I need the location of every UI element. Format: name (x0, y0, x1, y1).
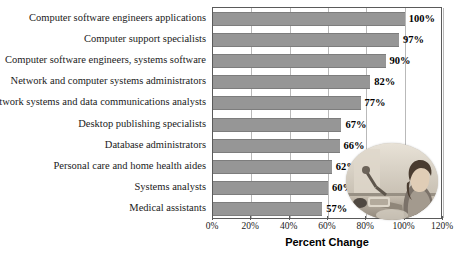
inset-photo (346, 143, 438, 220)
x-tick-label: 40% (280, 220, 297, 233)
x-tick-mark (442, 216, 443, 220)
x-tick-label: 0% (206, 220, 219, 233)
inset-photo-image (346, 143, 438, 220)
bar (213, 139, 340, 153)
x-tick-mark (327, 216, 328, 220)
bar-value-label: 77% (365, 96, 386, 110)
category-label: Computer software engineers, systems sof… (5, 53, 206, 67)
x-tick-mark (212, 216, 213, 220)
percent-change-bar-chart: Computer software engineers applications… (0, 0, 456, 254)
bar (213, 96, 361, 110)
x-tick-mark (289, 216, 290, 220)
category-label: Computer software engineers applications (29, 11, 206, 25)
bar-value-label: 67% (345, 118, 366, 132)
x-tick-label: 20% (242, 220, 259, 233)
category-label: Computer support specialists (84, 32, 206, 46)
category-axis-labels: Computer software engineers applications… (0, 7, 209, 219)
bar (213, 202, 322, 216)
category-label: Systems analysts (135, 180, 206, 194)
bar (213, 54, 386, 68)
x-axis-title: Percent Change (212, 236, 442, 248)
category-label: Network and computer systems administrat… (11, 74, 206, 88)
bar (213, 181, 328, 195)
gridline (443, 8, 444, 218)
bar-value-label: 82% (374, 75, 395, 89)
x-tick-mark (250, 216, 251, 220)
bar-value-label: 97% (403, 33, 424, 47)
category-label: Desktop publishing specialists (78, 117, 206, 131)
x-tick-mark (365, 216, 366, 220)
x-tick-label: 60% (318, 220, 335, 233)
bar (213, 118, 341, 132)
bar-value-label: 57% (326, 202, 347, 216)
bar-value-label: 100% (409, 12, 435, 26)
bar (213, 33, 399, 47)
x-tick-label: 120% (431, 220, 453, 233)
bar-value-label: 66% (344, 139, 365, 153)
category-label: Personal care and home health aides (54, 159, 206, 173)
category-label: Network systems and data communications … (0, 95, 206, 109)
bar (213, 160, 332, 174)
x-axis-tick-labels: 0%20%40%60%80%100%120% (212, 220, 442, 234)
x-tick-label: 100% (393, 220, 415, 233)
bar (213, 12, 405, 26)
category-label: Medical assistants (129, 201, 206, 215)
bar-value-label: 90% (390, 54, 411, 68)
x-tick-label: 80% (357, 220, 374, 233)
bar (213, 75, 370, 89)
category-label: Database administrators (105, 138, 206, 152)
